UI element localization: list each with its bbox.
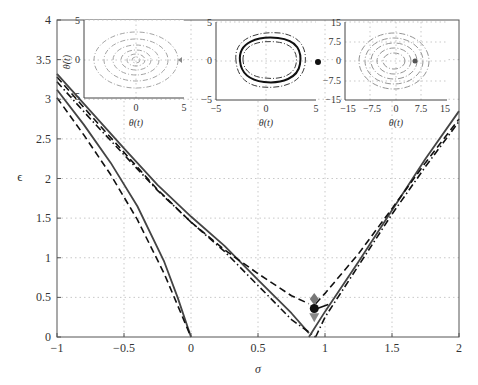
inset-1: 5 0 −5 0 5 θ(t) θ̇(t)	[61, 15, 187, 129]
svg-text:7.5: 7.5	[329, 36, 342, 47]
inset-3: 15 7.5 0 −7.5 −15 −15 −7.5 0 7.5 15 θ(t)	[323, 17, 450, 129]
svg-text:1: 1	[322, 341, 328, 355]
svg-text:4: 4	[45, 13, 51, 27]
svg-text:0.5: 0.5	[251, 341, 266, 355]
svg-text:15: 15	[331, 17, 341, 28]
svg-text:5: 5	[207, 17, 212, 28]
svg-text:0: 0	[394, 103, 399, 114]
svg-text:−1: −1	[51, 341, 64, 355]
svg-text:5: 5	[314, 103, 319, 114]
svg-text:0.5: 0.5	[36, 290, 51, 304]
svg-text:2: 2	[456, 341, 462, 355]
svg-text:15: 15	[440, 103, 450, 114]
diamond-marker	[310, 293, 319, 305]
svg-text:5: 5	[75, 15, 80, 26]
svg-text:0: 0	[45, 330, 51, 344]
triangle-down-marker	[309, 313, 319, 322]
svg-text:−5: −5	[69, 91, 80, 102]
svg-text:3: 3	[45, 92, 51, 106]
svg-text:1.5: 1.5	[36, 211, 51, 225]
svg-text:−7.5: −7.5	[363, 103, 381, 114]
svg-text:θ̇(t): θ̇(t)	[61, 54, 73, 69]
right-dashdot-line	[316, 121, 459, 337]
svg-text:0: 0	[188, 341, 194, 355]
svg-text:1: 1	[45, 251, 51, 265]
svg-text:0: 0	[207, 55, 212, 66]
svg-text:θ(t): θ(t)	[389, 117, 404, 129]
right-dashed-line	[316, 119, 459, 304]
right-solid-line	[309, 111, 459, 337]
svg-text:−15: −15	[340, 103, 356, 114]
svg-text:5: 5	[182, 102, 187, 113]
svg-text:θ(t): θ(t)	[129, 117, 144, 129]
svg-text:0: 0	[264, 103, 269, 114]
svg-text:3.5: 3.5	[36, 53, 51, 67]
x-axis-ticks: −1−0.500.511.52	[51, 333, 462, 355]
svg-text:7.5: 7.5	[415, 103, 428, 114]
svg-text:−15: −15	[325, 94, 341, 105]
svg-text:−0.5: −0.5	[113, 341, 135, 355]
inset-2: 5 0 −5 −5 0 5 θ(t)	[201, 17, 321, 129]
svg-text:2: 2	[45, 172, 51, 186]
svg-text:0: 0	[336, 55, 341, 66]
svg-text:−5: −5	[211, 103, 222, 114]
x-axis-label: σ	[255, 362, 262, 376]
svg-text:2.5: 2.5	[36, 132, 51, 146]
svg-text:1.5: 1.5	[385, 341, 400, 355]
svg-text:θ(t): θ(t)	[259, 117, 274, 129]
svg-text:0: 0	[75, 54, 80, 65]
svg-text:0: 0	[134, 102, 139, 113]
stability-chart: −1−0.500.511.52 00.511.522.533.54 σ ϵ 5 …	[0, 0, 478, 385]
svg-text:−7.5: −7.5	[323, 75, 341, 86]
y-axis-label: ϵ	[17, 169, 22, 184]
